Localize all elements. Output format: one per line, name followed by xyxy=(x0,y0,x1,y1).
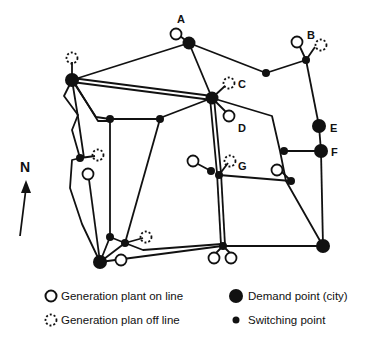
demand-point-se xyxy=(316,239,330,253)
demand-point-f xyxy=(314,144,328,158)
demand-point-c xyxy=(206,92,219,105)
legend-gen-off-label: Generation plan off line xyxy=(61,314,180,326)
power-grid-diagram: A B C D E F G N Generation plant on line… xyxy=(0,0,371,346)
legend-gen-on-label: Generation plant on line xyxy=(61,290,183,302)
label-b: B xyxy=(307,29,315,41)
demand-point-e xyxy=(312,119,326,133)
legend-switching-icon xyxy=(233,317,240,324)
legend-demand-label: Demand point (city) xyxy=(248,290,348,302)
label-f: F xyxy=(331,146,338,158)
label-d: D xyxy=(238,122,246,134)
label-a: A xyxy=(177,13,185,25)
legend-gen-off-icon xyxy=(46,315,57,326)
label-e: E xyxy=(330,122,337,134)
legend-demand-icon xyxy=(229,289,243,303)
demand-point-a xyxy=(183,37,196,50)
label-c: C xyxy=(238,78,246,90)
switching-points xyxy=(76,56,310,250)
demand-points xyxy=(65,37,330,270)
legend: Generation plant on line Generation plan… xyxy=(46,289,348,326)
legend-gen-on-icon xyxy=(46,291,57,302)
demand-point-nw xyxy=(65,73,79,87)
generation-plants-on-line xyxy=(83,29,303,266)
legend-switching-label: Switching point xyxy=(248,314,326,326)
label-g: G xyxy=(238,160,247,172)
north-label: N xyxy=(20,159,30,175)
demand-point-sw xyxy=(93,255,107,269)
north-arrow-icon xyxy=(20,180,31,236)
